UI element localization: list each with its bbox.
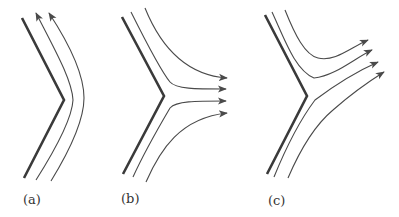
streamline-c-1	[285, 10, 368, 59]
panel-a-label: (a)	[23, 192, 41, 207]
wall-b	[122, 17, 164, 174]
panel-b-label: (b)	[121, 191, 139, 206]
streamline-b-4	[146, 113, 227, 182]
streamline-a-1	[36, 13, 73, 180]
streamline-b-3	[133, 101, 226, 177]
streamline-b-2	[131, 12, 226, 89]
streamline-b-1	[145, 8, 227, 78]
panel-c: (c)	[265, 10, 384, 208]
panel-c-label: (c)	[268, 193, 285, 208]
panel-b: (b)	[121, 8, 227, 206]
wall-a	[22, 18, 64, 178]
streamline-a-2	[49, 13, 84, 181]
panel-a: (a)	[22, 13, 84, 207]
streamline-c-3	[274, 62, 378, 177]
flow-diagram: (a) (b) (c)	[0, 0, 399, 217]
streamline-c-2	[272, 12, 372, 78]
